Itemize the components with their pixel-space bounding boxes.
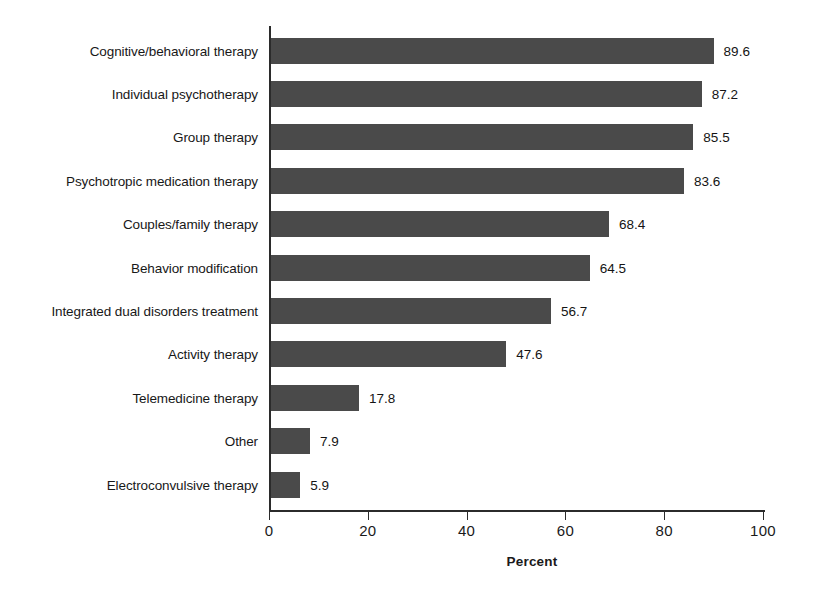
bar — [271, 124, 693, 150]
x-tick-label: 100 — [750, 522, 776, 539]
category-label: Other — [225, 434, 258, 449]
bar — [271, 472, 300, 498]
category-label: Telemedicine therapy — [132, 390, 258, 405]
category-label: Activity therapy — [168, 347, 258, 362]
bar-row: Psychotropic medication therapy83.6 — [0, 159, 816, 202]
x-tick-mark — [368, 512, 369, 520]
bar-value-label: 56.7 — [561, 304, 587, 319]
bar-row: Activity therapy47.6 — [0, 333, 816, 376]
x-tick-mark — [467, 512, 468, 520]
bar-value-label: 7.9 — [320, 434, 339, 449]
bar — [271, 38, 714, 64]
category-label: Behavior modification — [131, 260, 258, 275]
bar-row: Individual psychotherapy87.2 — [0, 72, 816, 115]
bar-row: Telemedicine therapy17.8 — [0, 376, 816, 419]
bar-value-label: 64.5 — [600, 260, 626, 275]
x-tick-label: 0 — [265, 522, 274, 539]
x-axis-title: Percent — [0, 554, 816, 569]
x-tick-label: 20 — [359, 522, 376, 539]
bar-row: Electroconvulsive therapy5.9 — [0, 463, 816, 506]
bar — [271, 385, 359, 411]
bar-value-label: 5.9 — [310, 477, 329, 492]
x-tick-label: 80 — [656, 522, 673, 539]
bar-value-label: 83.6 — [694, 173, 720, 188]
x-axis-title-label: Percent — [507, 554, 558, 569]
x-tick-mark — [763, 512, 764, 520]
bar-value-label: 47.6 — [516, 347, 542, 362]
bar — [271, 341, 506, 367]
x-tick-mark — [664, 512, 665, 520]
bar-value-label: 85.5 — [703, 130, 729, 145]
bar — [271, 81, 702, 107]
category-label: Group therapy — [173, 130, 258, 145]
bar — [271, 255, 590, 281]
x-tick-label: 40 — [458, 522, 475, 539]
bar-value-label: 87.2 — [712, 87, 738, 102]
category-label: Integrated dual disorders treatment — [51, 304, 258, 319]
x-tick-mark — [565, 512, 566, 520]
bar-value-label: 89.6 — [724, 43, 750, 58]
bar-row: Couples/family therapy68.4 — [0, 203, 816, 246]
bar-row: Group therapy85.5 — [0, 116, 816, 159]
bar-row: Cognitive/behavioral therapy89.6 — [0, 29, 816, 72]
category-label: Couples/family therapy — [123, 217, 258, 232]
bar — [271, 211, 609, 237]
bar-chart: Cognitive/behavioral therapy89.6Individu… — [0, 0, 816, 597]
bar-row: Other7.9 — [0, 420, 816, 463]
x-tick-label: 60 — [557, 522, 574, 539]
bar — [271, 168, 684, 194]
bar-row: Behavior modification64.5 — [0, 246, 816, 289]
bar-value-label: 68.4 — [619, 217, 645, 232]
category-label: Electroconvulsive therapy — [107, 477, 258, 492]
bar — [271, 428, 310, 454]
bar-value-label: 17.8 — [369, 390, 395, 405]
bar-row: Integrated dual disorders treatment56.7 — [0, 289, 816, 332]
x-axis-line — [269, 510, 765, 512]
category-label: Psychotropic medication therapy — [66, 173, 258, 188]
x-tick-mark — [269, 512, 270, 520]
bar — [271, 298, 551, 324]
category-label: Individual psychotherapy — [112, 87, 258, 102]
category-label: Cognitive/behavioral therapy — [90, 43, 258, 58]
